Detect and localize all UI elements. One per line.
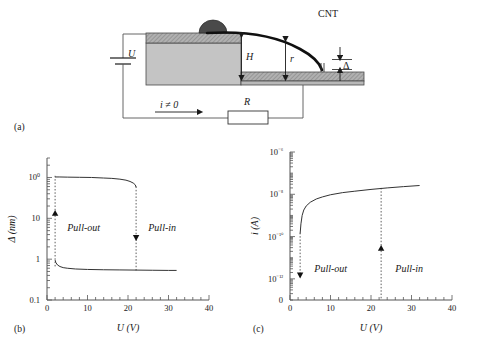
y-axis-origin-label: 0 bbox=[279, 295, 283, 305]
x-axis-tick-label: 30 bbox=[164, 303, 173, 313]
transition-arrow-pull-out bbox=[297, 273, 303, 279]
figure-container: CNTHrΔURi ≠ 0(a)0102030400.1110100U (V)Δ… bbox=[0, 0, 487, 344]
h-label: H bbox=[245, 51, 254, 62]
y-axis-tick-label: 0.1 bbox=[29, 295, 40, 305]
annotation-pull-in: Pull-in bbox=[394, 263, 423, 274]
y-axis-tick-label: 100 bbox=[29, 172, 41, 182]
y-axis-tick-label: 1 bbox=[36, 254, 40, 264]
voltage-label: U bbox=[128, 48, 136, 59]
panel-label-b: (b) bbox=[14, 324, 25, 335]
transition-arrow-pull-in bbox=[378, 245, 384, 251]
data-curve-contacted-current bbox=[300, 186, 419, 234]
x-axis-tick-label: 20 bbox=[367, 303, 376, 313]
transition-arrow-pull-out bbox=[52, 210, 58, 216]
annotation-pull-out: Pull-out bbox=[313, 263, 347, 274]
annotation-pull-in: Pull-in bbox=[147, 222, 176, 233]
catalyst-particle bbox=[199, 20, 227, 33]
y-axis-tick-label: 10⁻⁶ bbox=[269, 147, 283, 157]
schematic-panel: CNTHrΔURi ≠ 0(a) bbox=[14, 8, 364, 133]
x-axis-tick-label: 30 bbox=[407, 303, 416, 313]
y-axis-title: i (A) bbox=[249, 216, 261, 235]
cnt-label: CNT bbox=[318, 8, 338, 19]
panel-label-a: (a) bbox=[14, 122, 25, 133]
data-curve-lower-branch bbox=[55, 260, 177, 270]
x-axis-tick-label: 40 bbox=[205, 303, 214, 313]
substrate-base bbox=[241, 81, 364, 85]
current-label: i ≠ 0 bbox=[160, 99, 178, 110]
x-axis-tick-label: 40 bbox=[448, 303, 457, 313]
x-axis-tick-label: 20 bbox=[124, 303, 133, 313]
y-axis-title: Δ (nm) bbox=[6, 215, 18, 244]
x-axis-tick-label: 0 bbox=[45, 303, 49, 313]
annotation-pull-out: Pull-out bbox=[66, 222, 100, 233]
r-label: r bbox=[290, 53, 294, 64]
x-axis-tick-label: 10 bbox=[83, 303, 92, 313]
substrate-electrode bbox=[241, 72, 364, 81]
delta-label: Δ bbox=[343, 60, 350, 71]
y-axis-tick-label: 10⁻⁸ bbox=[269, 189, 283, 199]
transition-arrow-pull-in bbox=[133, 235, 139, 241]
support-block-top-layer bbox=[146, 33, 241, 43]
resistor-label: R bbox=[243, 96, 250, 107]
x-axis-title: U (V) bbox=[117, 322, 140, 334]
y-axis-tick-label: 10⁻¹² bbox=[268, 274, 283, 284]
data-curve-upper-branch bbox=[55, 177, 136, 187]
x-axis-tick-label: 10 bbox=[326, 303, 335, 313]
chart-panel-c: 01020304010⁻¹²10⁻¹⁰10⁻⁸10⁻⁶0U (V)i (A)Pu… bbox=[249, 147, 456, 334]
chart-panel-b: 0102030400.1110100U (V)Δ (nm)Pull-outPul… bbox=[6, 158, 213, 334]
figure-svg: CNTHrΔURi ≠ 0(a)0102030400.1110100U (V)Δ… bbox=[0, 0, 487, 344]
resistor-R bbox=[228, 111, 268, 124]
support-block-body bbox=[146, 43, 241, 85]
y-axis-tick-label: 10 bbox=[32, 213, 41, 223]
panel-label-c: (c) bbox=[253, 324, 264, 335]
x-axis-tick-label: 0 bbox=[288, 303, 292, 313]
y-axis-tick-label: 10⁻¹⁰ bbox=[268, 232, 284, 242]
x-axis-title: U (V) bbox=[360, 322, 383, 334]
